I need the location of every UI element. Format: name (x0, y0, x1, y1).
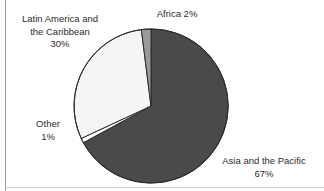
pie-label-latin-percent: 30% (8, 38, 112, 51)
pie-label-latin-america-and-the-caribbean: Latin America and the Caribbean 30% (8, 13, 112, 51)
figure-left-rule (5, 0, 6, 191)
pie-label-asia-percent: 67% (206, 168, 322, 181)
pie-label-africa-text: Africa 2% (157, 8, 198, 19)
pie-label-other: Other 1% (22, 118, 74, 143)
pie-label-asia-name: Asia and the Pacific (222, 155, 305, 166)
pie-label-africa: Africa 2% (134, 8, 220, 21)
pie-label-latin-line2: the Caribbean (30, 26, 90, 37)
pie-label-asia-and-the-pacific: Asia and the Pacific 67% (206, 155, 322, 180)
pie-chart-figure: Latin America and the Caribbean 30% Afri… (0, 0, 324, 191)
pie-label-other-percent: 1% (22, 131, 74, 144)
pie-label-latin-line1: Latin America and (22, 13, 98, 24)
pie-label-other-name: Other (36, 118, 60, 129)
figure-bottom-rule (5, 187, 324, 188)
